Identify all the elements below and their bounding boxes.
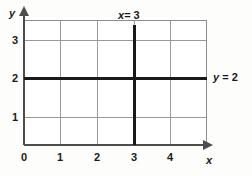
label-y-equals-2: y = 2 [213,72,238,83]
x-axis-arrow-icon [203,140,213,150]
line-x-equals-3 [133,25,136,145]
label-y-equals-2-variable: y [213,71,219,83]
x-axis-label: x [206,155,212,166]
plot-area [24,20,207,145]
y-tick-label-1: 1 [6,112,18,123]
coordinate-plane-figure: 0 1 2 3 4 1 2 3 x y x= 3 y = 2 [0,0,252,176]
x-tick-label-0: 0 [17,152,31,163]
gridline-vertical-x1 [60,20,61,145]
y-axis-label: y [9,8,15,19]
x-tick-label-1: 1 [53,152,67,163]
line-y-equals-2 [24,77,207,80]
x-tick-label-4: 4 [163,152,177,163]
gridline-horizontal-y1 [24,117,207,118]
y-tick-label-3: 3 [6,35,18,46]
y-axis-arrow-icon [19,6,29,16]
x-tick-label-2: 2 [90,152,104,163]
grid-border-right [206,20,207,145]
gridline-vertical-x2 [97,20,98,145]
x-tick-label-3: 3 [127,152,141,163]
gridline-vertical-x4 [170,20,171,145]
y-tick-label-2: 2 [6,73,18,84]
label-x-equals-3-value: = 3 [124,9,140,21]
label-y-equals-2-value: = 2 [222,71,238,83]
gridline-horizontal-y3 [24,40,207,41]
label-x-equals-3: x= 3 [118,10,140,21]
grid-border-top [24,20,207,21]
x-axis-line [24,144,206,146]
